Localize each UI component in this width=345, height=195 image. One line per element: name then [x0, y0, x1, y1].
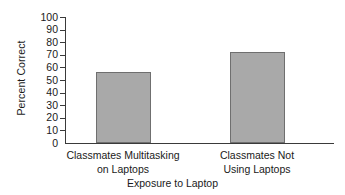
- x-axis-category-label-line: Classmates Not: [187, 148, 327, 162]
- y-axis-tick-mark: [60, 93, 65, 94]
- bar: [96, 72, 151, 143]
- y-axis-tick-label: 60: [33, 62, 58, 73]
- x-axis-title: Exposure to Laptop: [0, 177, 345, 190]
- y-axis-tick-mark: [60, 55, 65, 56]
- y-axis-tick-label: 40: [33, 87, 58, 98]
- y-axis-tick-mark: [60, 130, 65, 131]
- x-axis-category-label: Classmates Multitaskingon Laptops: [53, 148, 193, 176]
- plot-area: [65, 17, 334, 143]
- x-axis-category-label-line: Using Laptops: [187, 162, 327, 176]
- y-axis-tick-mark: [60, 67, 65, 68]
- y-axis-tick-label: 80: [33, 37, 58, 48]
- bar-chart-figure: Percent Correct 1009080706050403020100 E…: [0, 0, 345, 195]
- y-axis-tick-label: 70: [33, 49, 58, 60]
- y-axis-tick-label: 20: [33, 112, 58, 123]
- y-axis-tick-label: 30: [33, 100, 58, 111]
- y-axis-tick-label: 90: [33, 24, 58, 35]
- y-axis-tick-mark: [60, 30, 65, 31]
- y-axis-tick-label: 10: [33, 125, 58, 136]
- x-axis-category-label: Classmates NotUsing Laptops: [187, 148, 327, 176]
- bar: [230, 52, 285, 143]
- y-axis-tick-labels: 1009080706050403020100: [33, 11, 58, 143]
- y-axis-tick-mark: [60, 118, 65, 119]
- y-axis-title: Percent Correct: [14, 13, 28, 143]
- x-axis-category-label-line: on Laptops: [53, 162, 193, 176]
- y-axis-tick-mark: [60, 105, 65, 106]
- x-axis-category-label-line: Classmates Multitasking: [53, 148, 193, 162]
- y-axis-tick-mark: [60, 80, 65, 81]
- y-axis-tick-label: 0: [33, 138, 58, 149]
- y-axis-tick-label: 100: [33, 12, 58, 23]
- x-axis-line: [65, 143, 334, 144]
- y-axis-tick-mark: [60, 42, 65, 43]
- y-axis-tick-mark: [60, 17, 65, 18]
- y-axis-tick-label: 50: [33, 75, 58, 86]
